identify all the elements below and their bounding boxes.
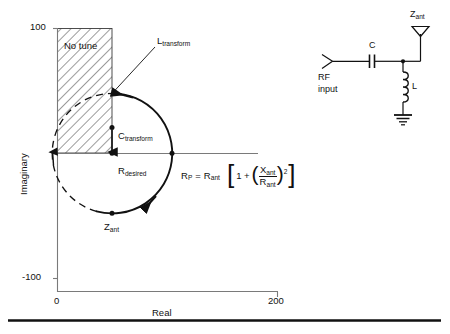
formula-ratio: Xant Rant [259, 165, 277, 188]
rf-input-label-line1: RF [318, 73, 330, 82]
marker-rp [170, 151, 175, 156]
marker-z-ant [110, 211, 115, 216]
z-ant-circuit-label: Zant [410, 10, 425, 19]
z-ant-plot-base: Z [104, 221, 110, 232]
formula-bracket-open: [ [227, 163, 234, 185]
rp-formula: RP = Rant [ 1 + ( Xant Rant ) 2 ] [181, 164, 296, 187]
formula-rhs-sub: ant [211, 174, 220, 181]
figure-root: 100 -100 Imaginary 0 200 Real No tune Lt… [0, 0, 450, 334]
z-ant-circuit-sub: ant [416, 13, 425, 20]
y-axis-bottom-tick: -100 [22, 272, 41, 282]
inductor-label: L [412, 82, 417, 91]
r-desired-sub: desired [125, 170, 147, 177]
z-ant-plot-sub: ant [110, 226, 119, 233]
l-transform-leader [113, 47, 156, 93]
x-axis-left-tick: 0 [54, 296, 59, 306]
formula-paren-close: ) [277, 165, 284, 183]
formula-den: Rant [259, 177, 277, 188]
inductor-coil [403, 72, 408, 102]
rf-input-label-line2: input [318, 85, 338, 94]
formula-paren-open: ( [252, 165, 259, 183]
formula-lhs-base: R [181, 170, 188, 181]
formula-exponent: 2 [284, 168, 288, 175]
ground-symbol [394, 115, 412, 125]
formula-one-plus: 1 + [236, 170, 249, 181]
formula-bracket-close: ] [288, 163, 295, 185]
z-ant-circuit-base: Z [410, 9, 416, 19]
formula-num-sub: ant [266, 169, 275, 176]
y-axis-top-tick: 100 [30, 22, 46, 32]
marker-c-transform [110, 125, 115, 130]
r-desired-label: Rdesired [118, 166, 147, 176]
formula-equals: = [192, 170, 204, 181]
l-transform-sub: transform [162, 40, 190, 47]
x-axis-right-tick: 200 [268, 296, 284, 306]
c-transform-label: Ctransform [118, 131, 153, 141]
z-ant-plot-label: Zant [104, 222, 119, 232]
no-tune-label: No tune [64, 41, 97, 51]
formula-lhs-sub: P [188, 174, 192, 181]
r-desired-base: R [118, 165, 125, 176]
c-transform-sub: transform [125, 135, 153, 142]
x-axis-title: Real [152, 308, 172, 318]
marker-r-desired [110, 151, 115, 156]
y-axis-title: Imaginary [18, 153, 29, 195]
l-transform-label: Ltransform [157, 36, 190, 46]
capacitor-label: C [369, 41, 376, 50]
formula-rhs-base: R [204, 170, 211, 181]
formula-den-sub: ant [266, 181, 275, 188]
c-transform-base: C [118, 130, 125, 141]
